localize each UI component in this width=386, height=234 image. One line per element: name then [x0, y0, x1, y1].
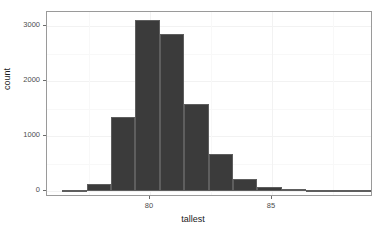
- y-tick-mark: [43, 190, 46, 191]
- gridline-y-minor: [47, 109, 371, 110]
- plot-panel: [46, 11, 372, 196]
- y-tick-label: 3000: [2, 20, 40, 29]
- y-tick-mark: [43, 25, 46, 26]
- histogram-bar: [282, 189, 306, 191]
- y-axis-title: count: [2, 68, 12, 90]
- histogram-bar: [233, 179, 257, 191]
- histogram-bar: [135, 20, 159, 191]
- histogram-bar: [306, 190, 372, 192]
- histogram-bar: [62, 190, 86, 192]
- gridline-y-minor: [47, 54, 371, 55]
- gridline-x-minor: [333, 12, 334, 195]
- y-tick-label: 1000: [2, 130, 40, 139]
- x-axis-title: tallest: [0, 214, 386, 224]
- histogram-chart: 0100020003000 8085 count tallest: [0, 0, 386, 234]
- y-tick-mark: [43, 80, 46, 81]
- histogram-bar: [257, 187, 281, 191]
- histogram-bar: [184, 104, 208, 191]
- gridline-y: [47, 136, 371, 137]
- histogram-bar: [209, 154, 233, 191]
- histogram-bar: [111, 117, 135, 191]
- histogram-bar: [87, 184, 111, 191]
- x-tick-mark: [149, 196, 150, 199]
- gridline-x: [272, 12, 273, 195]
- y-tick-mark: [43, 135, 46, 136]
- x-tick-mark: [271, 196, 272, 199]
- gridline-y: [47, 81, 371, 82]
- y-tick-label: 0: [2, 185, 40, 194]
- x-tick-label: 85: [251, 201, 291, 210]
- gridline-x-minor: [89, 12, 90, 195]
- histogram-bar: [160, 34, 184, 191]
- gridline-y: [47, 26, 371, 27]
- x-tick-label: 80: [129, 201, 169, 210]
